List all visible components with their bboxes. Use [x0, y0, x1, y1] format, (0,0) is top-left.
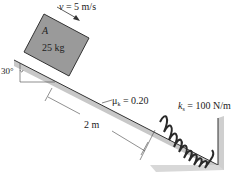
block-label: A: [42, 26, 48, 36]
angle-label: 30°: [1, 67, 14, 76]
distance-label: 2 m: [84, 120, 99, 130]
mass-label: 25 kg: [42, 43, 65, 53]
velocity-label: v = 5 m/s: [59, 2, 96, 12]
friction-label: μk = 0.20: [112, 96, 149, 107]
friction-leader: [102, 100, 112, 103]
spring-label: ks = 100 N/m: [178, 101, 231, 112]
